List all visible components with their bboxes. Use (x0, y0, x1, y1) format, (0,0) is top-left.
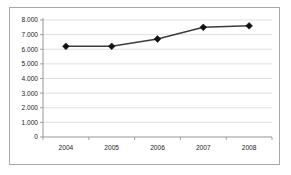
x-axis-tick-label: 2007 (196, 144, 211, 151)
y-axis-tick-label: 5.000 (21, 60, 38, 67)
x-axis-labels-group: 20042005200620072008 (59, 144, 257, 151)
x-axis-tick-label: 2004 (59, 144, 74, 151)
x-axis-tick-label: 2006 (150, 144, 165, 151)
y-axis-tick-label: 2.000 (21, 104, 38, 111)
x-axis-tick-label: 2005 (104, 144, 119, 151)
y-axis-tick-label: 1.000 (21, 119, 38, 126)
y-axis-tick-label: 0 (34, 133, 38, 140)
y-axis-tick-label: 7.000 (21, 31, 38, 38)
chart-plot-area: 8.0007.0006.0005.0004.0003.0002.0001.000… (10, 8, 281, 166)
line-chart: 8.0007.0006.0005.0004.0003.0002.0001.000… (10, 8, 281, 166)
chart-frame: 8.0007.0006.0005.0004.0003.0002.0001.000… (9, 7, 280, 165)
data-point-marker (63, 43, 70, 50)
y-axis-tick-label: 6.000 (21, 46, 38, 53)
data-point-marker (108, 43, 115, 50)
y-axis-tick-label: 3.000 (21, 90, 38, 97)
data-point-marker (246, 22, 253, 29)
data-point-marker (200, 24, 207, 31)
x-axis-tick-label: 2008 (242, 144, 257, 151)
y-axis-tick-label: 8.000 (21, 16, 38, 23)
y-axis-labels-group: 8.0007.0006.0005.0004.0003.0002.0001.000… (21, 16, 38, 140)
y-axis-tick-label: 4.000 (21, 75, 38, 82)
data-point-marker (154, 36, 161, 43)
